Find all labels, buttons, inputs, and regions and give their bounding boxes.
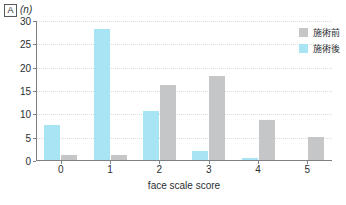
gridline bbox=[37, 68, 332, 69]
bar-before-4 bbox=[259, 120, 275, 160]
chart-legend: 施術前施術後 bbox=[299, 26, 340, 55]
bar-before-2 bbox=[160, 85, 176, 160]
legend-item-before: 施術前 bbox=[299, 26, 340, 39]
bar-before-3 bbox=[209, 76, 225, 160]
y-tick-label: 10 bbox=[20, 109, 31, 120]
bar-after-2 bbox=[143, 111, 159, 160]
y-tick-label: 25 bbox=[20, 39, 31, 50]
legend-item-after: 施術後 bbox=[299, 42, 340, 55]
x-axis-title: face scale score bbox=[36, 180, 332, 191]
y-tick-mark bbox=[33, 138, 36, 139]
bar-after-4 bbox=[242, 158, 258, 160]
plot-area: 051015202530 012345 face scale score bbox=[36, 21, 332, 161]
legend-label-before: 施術前 bbox=[313, 26, 340, 39]
gridline bbox=[37, 114, 332, 115]
y-tick-mark bbox=[33, 68, 36, 69]
bar-before-5 bbox=[308, 137, 324, 160]
gridline bbox=[37, 138, 332, 139]
gridline bbox=[37, 21, 332, 22]
bar-after-3 bbox=[192, 151, 208, 160]
y-tick-mark bbox=[33, 21, 36, 22]
x-tick-label: 3 bbox=[206, 164, 212, 175]
bar-after-0 bbox=[44, 125, 60, 160]
y-tick-mark bbox=[33, 91, 36, 92]
x-tick-label: 0 bbox=[58, 164, 64, 175]
x-axis-line bbox=[36, 160, 332, 161]
x-tick-label: 2 bbox=[157, 164, 163, 175]
bar-before-0 bbox=[61, 155, 77, 160]
y-tick-mark bbox=[33, 114, 36, 115]
gridline bbox=[37, 44, 332, 45]
gridline bbox=[37, 91, 332, 92]
y-tick-label: 5 bbox=[25, 132, 31, 143]
bar-after-1 bbox=[94, 29, 110, 160]
bar-before-1 bbox=[111, 155, 127, 160]
legend-swatch-after bbox=[299, 44, 308, 53]
y-tick-mark bbox=[33, 44, 36, 45]
y-tick-label: 0 bbox=[25, 156, 31, 167]
legend-swatch-before bbox=[299, 28, 308, 37]
panel-label: A bbox=[4, 4, 17, 17]
y-axis-unit-label: (n) bbox=[20, 4, 32, 15]
y-tick-label: 20 bbox=[20, 62, 31, 73]
legend-label-after: 施術後 bbox=[313, 42, 340, 55]
x-tick-label: 4 bbox=[255, 164, 261, 175]
x-tick-label: 1 bbox=[107, 164, 113, 175]
x-tick-label: 5 bbox=[305, 164, 311, 175]
y-tick-label: 30 bbox=[20, 16, 31, 27]
y-tick-label: 15 bbox=[20, 86, 31, 97]
chart-panel: A (n) 051015202530 012345 face scale sco… bbox=[0, 0, 346, 205]
y-tick-mark bbox=[33, 161, 36, 162]
